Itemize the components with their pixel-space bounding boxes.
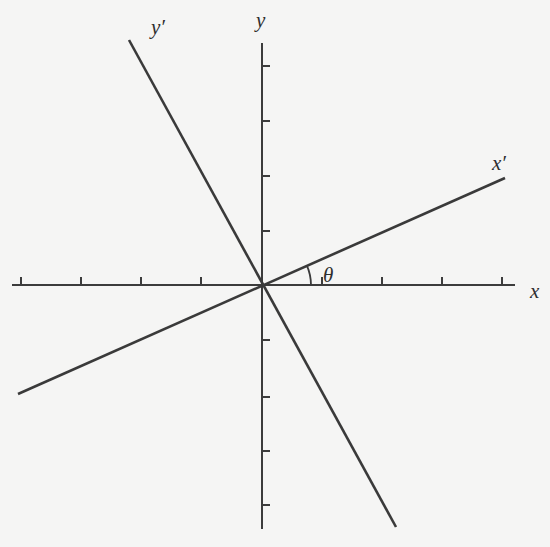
x-axis-label: x bbox=[529, 279, 540, 303]
y-prime-axis-label: y′ bbox=[149, 15, 165, 39]
theta-angle-label: θ bbox=[323, 263, 333, 287]
x-prime-axis-label: x′ bbox=[491, 151, 506, 175]
y-axis-label: y bbox=[254, 8, 266, 32]
rotated-axes-diagram: x y x′ y′ θ bbox=[0, 0, 550, 547]
background bbox=[0, 0, 550, 547]
